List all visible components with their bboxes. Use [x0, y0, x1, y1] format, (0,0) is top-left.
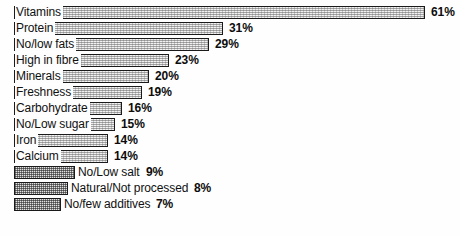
- bar-value-label: 7%: [156, 197, 173, 211]
- bar-value-label: 20%: [155, 69, 179, 83]
- bar-category-label: No/low fats: [15, 37, 76, 51]
- bar-chart: Vitamins61%Protein31%No/low fats29%High …: [0, 0, 460, 236]
- bar: [14, 182, 68, 195]
- bar-value-label: 14%: [114, 149, 138, 163]
- bar-value-label: 31%: [229, 21, 253, 35]
- bar-value-label: 9%: [146, 165, 163, 179]
- bar-category-label: No/few additives: [62, 197, 152, 211]
- bar-category-label: Freshness: [15, 85, 73, 99]
- bar-category-label: Minerals: [15, 69, 63, 83]
- bar-value-label: 29%: [215, 37, 239, 51]
- bar-category-label: Natural/Not processed: [69, 181, 190, 195]
- bar-category-label: Vitamins: [15, 5, 63, 19]
- bar-value-label: 14%: [114, 133, 138, 147]
- bar-category-label: Protein: [15, 21, 55, 35]
- bar-category-label: Carbohydrate: [15, 101, 90, 115]
- bar-category-label: No/Low sugar: [15, 117, 91, 131]
- bar-value-label: 16%: [128, 101, 152, 115]
- bar-category-label: Iron: [15, 133, 38, 147]
- bar-value-label: 8%: [194, 181, 211, 195]
- bar: [14, 198, 61, 211]
- bar-value-label: 23%: [175, 53, 199, 67]
- bar-category-label: High in fibre: [15, 53, 81, 67]
- bar-category-label: No/Low salt: [76, 165, 142, 179]
- bar-value-label: 15%: [121, 117, 145, 131]
- bar-category-label: Calcium: [15, 149, 61, 163]
- bar: [14, 6, 425, 19]
- bar-value-label: 19%: [148, 85, 172, 99]
- bar-value-label: 61%: [431, 5, 455, 19]
- bar: [14, 166, 75, 179]
